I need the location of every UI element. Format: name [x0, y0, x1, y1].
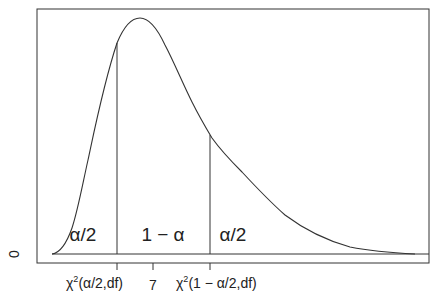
- chi-square-chart: 0 α/2 1 − α α/2 χ2(α/2,df) 7 χ2(1 − α/2,…: [0, 0, 436, 303]
- region-label-right: α/2: [220, 224, 247, 245]
- x-tick-label-df: 7: [149, 277, 157, 293]
- region-label-center: 1 − α: [141, 224, 184, 245]
- x-tick-label-lower: χ2(α/2,df): [66, 274, 123, 291]
- density-curve: [52, 18, 415, 254]
- tick-args: (1 − α/2,df): [188, 275, 256, 291]
- tick-args: (α/2,df): [78, 275, 123, 291]
- x-tick-label-upper: χ2(1 − α/2,df): [176, 274, 257, 291]
- region-label-left: α/2: [70, 224, 97, 245]
- y-tick-zero: 0: [6, 250, 22, 258]
